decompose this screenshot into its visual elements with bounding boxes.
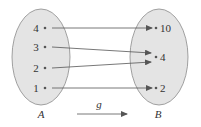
- b-dot-4: [155, 56, 158, 59]
- a-element-3: 3: [33, 41, 39, 53]
- a-dot-2: [44, 67, 47, 70]
- a-dot-3: [44, 46, 47, 49]
- a-element-4: 4: [33, 22, 39, 34]
- b-dot-10: [155, 27, 158, 30]
- set-a-ellipse: [12, 9, 70, 105]
- function-label: g: [96, 98, 102, 110]
- a-element-2: 2: [33, 62, 39, 74]
- a-element-1: 1: [33, 82, 39, 94]
- b-element-2: 2: [160, 82, 166, 94]
- set-b-ellipse: [130, 9, 188, 105]
- b-element-10: 10: [160, 22, 172, 34]
- a-dot-1: [44, 87, 47, 90]
- set-a-label: A: [37, 108, 45, 120]
- function-mapping-diagram: 4 3 2 1 10 4 2 A B g: [0, 0, 201, 127]
- set-b-label: B: [155, 108, 162, 120]
- b-element-4: 4: [160, 51, 166, 63]
- diagram-canvas: 4 3 2 1 10 4 2 A B g: [0, 0, 201, 127]
- b-dot-2: [155, 87, 158, 90]
- a-dot-4: [44, 27, 47, 30]
